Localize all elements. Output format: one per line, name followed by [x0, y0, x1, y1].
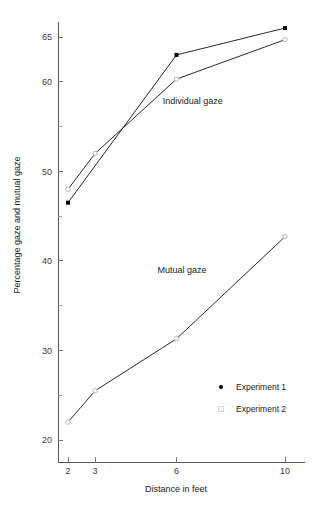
y-tick-label: 40: [42, 256, 52, 266]
legend-label: Experiment 2: [236, 404, 286, 414]
y-tick-label: 65: [42, 32, 52, 42]
x-axis-title: Distance in feet: [145, 484, 208, 494]
legend-marker-experiment-2: [219, 407, 224, 412]
y-tick-label: 50: [42, 167, 52, 177]
data-point-experiment-2: [174, 77, 178, 81]
data-point-experiment-1: [283, 26, 287, 30]
data-point-experiment-2: [283, 235, 287, 239]
data-point-experiment-1: [66, 201, 70, 205]
data-point-experiment-2: [174, 337, 178, 341]
annotation-individual-gaze: Individual gaze: [163, 96, 223, 106]
data-point-experiment-2: [93, 151, 97, 155]
data-point-experiment-2: [283, 37, 287, 41]
y-axis-title: Percentage gaze and mutual gaze: [12, 156, 22, 293]
y-tick-label: 30: [42, 346, 52, 356]
x-tick-label: 10: [280, 466, 290, 476]
data-point-experiment-2: [66, 187, 70, 191]
y-tick-label: 60: [42, 77, 52, 87]
y-tick-label: 20: [42, 435, 52, 445]
data-point-experiment-2: [93, 389, 97, 393]
data-point-experiment-2: [66, 420, 70, 424]
legend-label: Experiment 1: [236, 382, 286, 392]
x-tick-label: 3: [93, 466, 98, 476]
data-point-experiment-1: [175, 53, 179, 57]
chart-container: 203040506065 23610 Individual gazeMutual…: [0, 0, 315, 505]
gaze-percentage-line-chart: 203040506065 23610 Individual gazeMutual…: [0, 0, 315, 505]
x-tick-label: 6: [174, 466, 179, 476]
legend-marker-experiment-1: [219, 385, 223, 389]
x-tick-label: 2: [65, 466, 70, 476]
annotation-mutual-gaze: Mutual gaze: [157, 265, 206, 275]
